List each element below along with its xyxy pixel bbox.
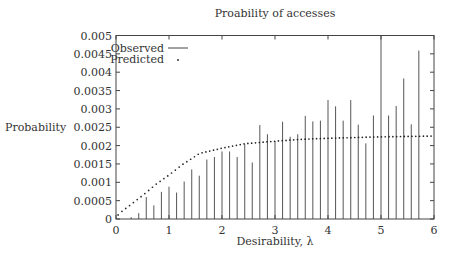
predicted-point: [430, 135, 432, 137]
predicted-point: [270, 141, 272, 143]
predicted-point: [236, 144, 238, 146]
y-tick-label: 0.005: [81, 30, 113, 43]
predicted-point: [339, 137, 341, 139]
predicted-point: [304, 138, 306, 140]
predicted-point: [407, 136, 409, 138]
predicted-point: [159, 181, 161, 183]
predicted-point: [201, 152, 203, 154]
predicted-point: [209, 150, 211, 152]
predicted-point: [274, 140, 276, 142]
predicted-point: [262, 141, 264, 143]
predicted-point: [129, 205, 131, 207]
predicted-point: [163, 178, 165, 180]
predicted-point: [251, 142, 253, 144]
y-tick-label: 0.001: [81, 176, 113, 189]
predicted-point: [125, 208, 127, 210]
predicted-point: [388, 136, 390, 138]
predicted-point: [411, 136, 413, 138]
predicted-point: [354, 137, 356, 139]
predicted-point: [331, 137, 333, 139]
predicted-point: [224, 147, 226, 149]
predicted-point: [155, 183, 157, 185]
predicted-point: [117, 214, 119, 216]
predicted-point: [186, 161, 188, 163]
predicted-point: [216, 148, 218, 150]
predicted-point: [381, 136, 383, 138]
predicted-point: [426, 135, 428, 137]
y-tick-label: 0.0015: [74, 158, 113, 171]
legend-predicted-label: Predicted: [110, 53, 164, 66]
predicted-point: [171, 172, 173, 174]
x-axis-label: Desirability, λ: [236, 235, 313, 248]
predicted-point: [308, 138, 310, 140]
y-tick-label: 0: [105, 213, 112, 226]
predicted-point: [266, 141, 268, 143]
observed-bars: [131, 36, 419, 220]
predicted-point: [350, 137, 352, 139]
predicted-point: [285, 140, 287, 142]
predicted-point: [140, 196, 142, 198]
predicted-point: [423, 135, 425, 137]
predicted-point: [361, 136, 363, 138]
x-tick-label: 0: [113, 224, 120, 237]
predicted-point: [400, 136, 402, 138]
predicted-point: [167, 175, 169, 177]
predicted-point: [175, 169, 177, 171]
predicted-point: [255, 142, 257, 144]
predicted-point: [232, 145, 234, 147]
y-tick-label: 0.0005: [74, 195, 113, 208]
predicted-point: [327, 137, 329, 139]
predicted-point: [297, 139, 299, 141]
y-axis-label: Probability: [5, 121, 67, 134]
x-tick-label: 2: [219, 224, 226, 237]
predicted-point: [194, 156, 196, 158]
predicted-point: [258, 142, 260, 144]
predicted-point: [312, 138, 314, 140]
predicted-point: [396, 136, 398, 138]
x-tick-label: 1: [166, 224, 173, 237]
predicted-point: [247, 143, 249, 145]
predicted-point: [205, 151, 207, 153]
predicted-point: [403, 136, 405, 138]
predicted-point: [365, 136, 367, 138]
y-tick-label: 0.004: [81, 66, 113, 79]
predicted-point: [133, 202, 135, 204]
legend: Observed Predicted: [110, 42, 188, 66]
predicted-point: [281, 140, 283, 142]
predicted-point: [346, 137, 348, 139]
predicted-point: [342, 137, 344, 139]
predicted-point: [144, 193, 146, 195]
predicted-point: [323, 138, 325, 140]
predicted-point: [190, 158, 192, 160]
x-tick-label: 5: [378, 224, 385, 237]
predicted-point: [228, 146, 230, 148]
y-tick-label: 0.0025: [74, 121, 113, 134]
predicted-point: [293, 139, 295, 141]
chart-title: Proability of accesses: [215, 7, 336, 20]
predicted-point: [289, 139, 291, 141]
predicted-point: [358, 137, 360, 139]
predicted-point: [239, 144, 241, 146]
y-tick-label: 0.0045: [74, 48, 113, 61]
predicted-point: [278, 140, 280, 142]
predicted-point: [392, 136, 394, 138]
chart: 0123456 00.00050.0010.00150.0020.00250.0…: [0, 0, 455, 265]
predicted-point: [415, 135, 417, 137]
y-tick-label: 0.003: [81, 103, 113, 116]
predicted-point: [377, 136, 379, 138]
predicted-point: [197, 153, 199, 155]
predicted-point: [152, 186, 154, 188]
predicted-point: [243, 143, 245, 145]
predicted-point: [369, 136, 371, 138]
predicted-point: [419, 135, 421, 137]
predicted-point: [300, 138, 302, 140]
predicted-point: [136, 199, 138, 201]
predicted-point: [320, 138, 322, 140]
predicted-point: [148, 190, 150, 192]
predicted-point: [335, 137, 337, 139]
legend-predicted-swatch: [177, 59, 179, 61]
predicted-point: [213, 149, 215, 151]
predicted-point: [384, 136, 386, 138]
predicted-point: [182, 163, 184, 165]
predicted-point: [178, 166, 180, 168]
